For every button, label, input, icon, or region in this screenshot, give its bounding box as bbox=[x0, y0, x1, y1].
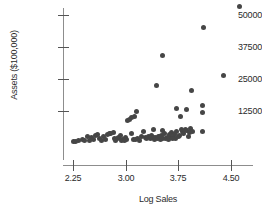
data-point bbox=[132, 114, 137, 119]
data-point bbox=[200, 103, 205, 108]
data-point bbox=[201, 25, 206, 30]
data-point bbox=[134, 109, 139, 114]
data-point bbox=[237, 4, 242, 9]
data-point bbox=[141, 129, 146, 134]
data-point bbox=[151, 127, 156, 132]
data-point bbox=[111, 130, 116, 135]
data-point bbox=[184, 107, 189, 112]
data-point bbox=[200, 110, 205, 115]
data-point bbox=[124, 137, 129, 142]
data-point bbox=[157, 134, 162, 139]
plot-area bbox=[0, 0, 262, 205]
data-point bbox=[174, 106, 179, 111]
data-point bbox=[160, 53, 165, 58]
data-point bbox=[190, 129, 195, 134]
data-point bbox=[154, 83, 159, 88]
data-point bbox=[189, 88, 194, 93]
data-point bbox=[103, 137, 108, 142]
data-point bbox=[178, 114, 183, 119]
scatter-chart: 50000 37500 25000 12500 Assets ($100,000… bbox=[0, 0, 262, 205]
data-point bbox=[221, 73, 226, 78]
data-point bbox=[129, 131, 134, 136]
data-point bbox=[170, 136, 175, 141]
data-point bbox=[200, 129, 205, 134]
